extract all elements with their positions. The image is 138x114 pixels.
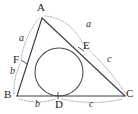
geometry-figure: A B C D E F a a b b c c [0,0,138,114]
arc-a-right [45,16,83,44]
figure-canvas [0,0,138,114]
segment-label-a-left: a [19,33,24,43]
segment-label-b-bottom: b [35,99,40,109]
arc-c-right [85,47,125,92]
vertex-label-b: B [4,89,11,100]
triangle-side-ac [42,18,125,96]
tick-f [21,60,27,64]
segment-label-c-right: c [107,54,111,64]
tangent-label-f: F [13,54,19,65]
segment-label-a-right: a [86,19,91,29]
inscribed-circle [35,48,83,96]
tangent-label-d: D [55,99,63,110]
vertex-label-c: C [126,88,133,99]
tangent-label-e: E [83,40,90,51]
vertex-label-a: A [37,2,45,13]
segment-label-c-bottom: c [89,99,93,109]
segment-label-b-left: b [10,66,15,76]
